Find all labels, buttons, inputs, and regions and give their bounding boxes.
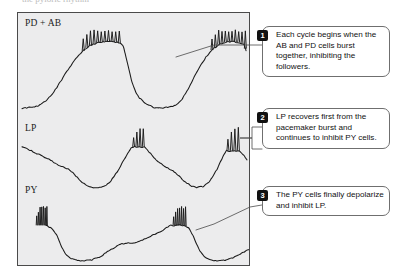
spike-burst: [211, 30, 246, 50]
trace-lp: [22, 127, 247, 188]
trace-label-py: PY: [25, 185, 38, 195]
slow-wave-path: [46, 225, 249, 261]
callout-badge-2: 2: [257, 112, 268, 123]
trace-py: [36, 206, 249, 261]
callout-text-3: The PY cells finally depolarize and inhi…: [276, 190, 384, 211]
spike-burst: [82, 30, 120, 51]
slow-wave-path: [22, 41, 246, 108]
cropped-header-text: the pyloric rhythm: [22, 0, 172, 5]
trace-label-lp: LP: [25, 123, 37, 133]
callout-box-3: 3 The PY cells finally depolarize and in…: [262, 186, 390, 216]
spike-burst: [133, 129, 145, 147]
spike-burst: [36, 206, 47, 225]
trace-label-pd-ab: PD + AB: [25, 18, 61, 28]
callout-text-2: LP recovers first from the pacemaker bur…: [276, 112, 384, 144]
callout-box-1: 1 Each cycle begins when the AB and PD c…: [262, 26, 390, 77]
callout-badge-3: 3: [257, 190, 268, 201]
slow-wave-path: [22, 146, 247, 187]
callout-badge-1: 1: [257, 30, 268, 41]
spike-burst: [173, 206, 186, 226]
trace-pd-ab: [22, 30, 246, 109]
callout-box-2: 2 LP recovers first from the pacemaker b…: [262, 108, 390, 149]
cropped-header-label: the pyloric rhythm: [22, 0, 172, 4]
callout-text-1: Each cycle begins when the AB and PD cel…: [276, 30, 384, 72]
recording-trace-panel: PD + AB LP PY: [17, 12, 250, 266]
pyloric-rhythm-figure: the pyloric rhythm PD + AB LP PY 1 Each …: [0, 0, 394, 274]
spike-burst: [227, 127, 239, 151]
voltage-traces-svg: [18, 13, 249, 265]
